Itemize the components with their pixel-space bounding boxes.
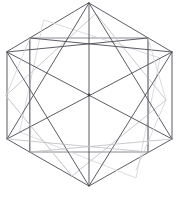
light-strut-lower-right: [136, 100, 166, 170]
center-node: [88, 94, 91, 97]
wireframe-diagram: [0, 0, 179, 200]
lower-chord-right: [30, 139, 172, 152]
figure-canvas: [0, 0, 179, 200]
light-strut-upper-left: [6, 38, 30, 96]
lower-chord-left: [7, 139, 148, 152]
upper-chord-left: [7, 38, 148, 52]
light-strut-lower-left: [6, 96, 72, 176]
upper-chord-right: [30, 38, 172, 52]
vertex-markers-group: [88, 94, 91, 97]
